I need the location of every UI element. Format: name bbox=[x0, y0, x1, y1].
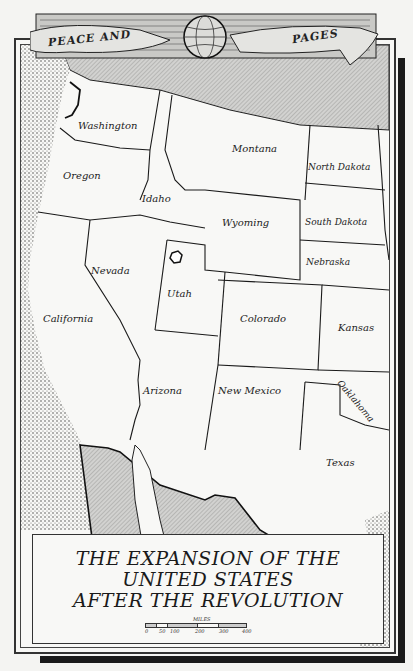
scale-tick-400: 400 bbox=[242, 628, 252, 634]
scale-tick-50: 50 bbox=[159, 628, 165, 634]
state-label-texas: Texas bbox=[326, 457, 355, 468]
state-label-arizona: Arizona bbox=[143, 385, 182, 396]
state-label-south-dakota: South Dakota bbox=[305, 217, 367, 227]
state-label-new-mexico: New Mexico bbox=[218, 385, 281, 396]
state-label-california: California bbox=[43, 313, 93, 324]
decorative-banner: PEACE AND PAGES bbox=[30, 10, 380, 65]
scale-bar: MILES 0 50 100 200 300 400 bbox=[145, 618, 265, 638]
state-label-washington: Washington bbox=[78, 120, 137, 131]
state-label-oregon: Oregon bbox=[63, 170, 101, 181]
state-label-montana: Montana bbox=[232, 143, 277, 154]
state-label-wyoming: Wyoming bbox=[222, 217, 269, 228]
title-line-1: THE EXPANSION OF THE bbox=[33, 547, 383, 569]
state-label-idaho: Idaho bbox=[142, 193, 171, 204]
state-label-kansas: Kansas bbox=[338, 322, 374, 333]
scale-tick-300: 300 bbox=[219, 628, 229, 634]
title-line-3: AFTER THE REVOLUTION bbox=[33, 589, 383, 611]
state-label-north-dakota: North Dakota bbox=[308, 162, 370, 172]
state-label-utah: Utah bbox=[167, 288, 192, 299]
scale-tick-0: 0 bbox=[145, 628, 148, 634]
title-line-2: UNITED STATES bbox=[33, 568, 383, 590]
scale-tick-200: 200 bbox=[195, 628, 205, 634]
state-label-colorado: Colorado bbox=[240, 313, 286, 324]
scale-tick-100: 100 bbox=[170, 628, 180, 634]
state-label-nevada: Nevada bbox=[91, 265, 130, 276]
scale-label: MILES bbox=[193, 616, 211, 622]
puget-sound bbox=[65, 82, 80, 118]
map-page: Washington Oregon Idaho Montana North Da… bbox=[0, 0, 413, 671]
state-label-nebraska: Nebraska bbox=[306, 257, 350, 267]
great-salt-lake bbox=[170, 251, 182, 263]
